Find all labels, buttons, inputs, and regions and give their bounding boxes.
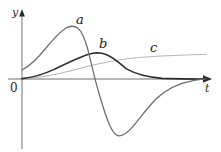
y-axis-arrowhead [19,9,25,17]
x-axis-label: t [205,83,209,94]
y-axis-label: y [12,7,18,18]
graph-figure: a b c y t 0 [0,0,221,152]
graph-canvas [0,0,221,152]
curve-label-b: b [99,37,107,50]
curve-label-a: a [76,13,84,26]
curve-label-c: c [150,41,157,54]
origin-label: 0 [10,82,18,94]
curve-a [22,26,206,136]
